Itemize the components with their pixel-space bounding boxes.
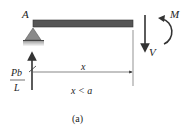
beam [33, 20, 133, 27]
ground-line [23, 40, 44, 42]
moment-arrowhead-icon [158, 15, 165, 22]
moment-arrow [162, 19, 172, 44]
label-condition: x < a [70, 85, 92, 96]
beam-free-body-diagram: A M V Pb L x x < a (a) [0, 0, 186, 134]
label-moment: M [169, 8, 180, 20]
label-point-a: A [21, 8, 29, 20]
label-reaction-denominator: L [13, 82, 20, 93]
caption: (a) [72, 113, 83, 125]
label-distance: x [80, 61, 86, 72]
label-reaction-numerator: Pb [10, 67, 22, 78]
label-shear: V [149, 46, 157, 58]
ground-hatch [23, 42, 44, 47]
pin-support-icon [25, 28, 41, 40]
